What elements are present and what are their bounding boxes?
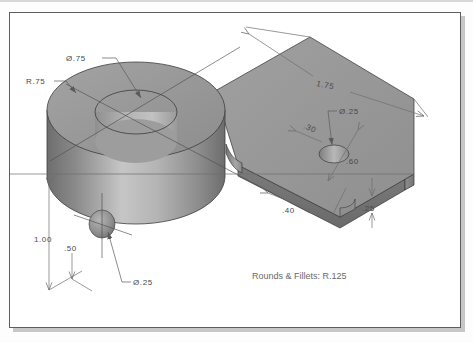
dimension-side-hole-height: .50 xyxy=(64,244,92,291)
dimension-side-hole-height-ext xyxy=(72,279,92,291)
dimension-side-hole-dia-label: Ø.25 xyxy=(133,278,153,287)
arm-hole-top xyxy=(319,145,349,163)
technical-drawing-canvas: Ø.75 R.75 1.75 Ø.25 xyxy=(10,13,460,327)
top-crop-rule xyxy=(0,0,473,2)
dimension-arm-length-ext-end xyxy=(414,99,428,117)
dimension-arm-hole-dist-label: .40 xyxy=(282,206,295,215)
dimension-arm-thickness-label: .25 xyxy=(362,204,375,213)
dimension-side-hole-dia: Ø.25 xyxy=(108,232,153,287)
dimension-arm-length-ext-start xyxy=(246,27,310,37)
drawing-viewer: Ø.75 R.75 1.75 Ø.25 xyxy=(0,0,473,343)
bore-bottom-edge xyxy=(95,119,177,163)
dimension-overall-height-ext-bot xyxy=(49,271,82,290)
dimension-side-hole-dia-leader xyxy=(108,232,131,282)
drawing-page: Ø.75 R.75 1.75 Ø.25 xyxy=(9,12,461,328)
dimension-arm-width-label: .60 xyxy=(346,157,359,166)
dimension-bore-dia-label: Ø.75 xyxy=(66,54,86,63)
dimension-arm-hole-dia-label: Ø.25 xyxy=(339,107,359,116)
dimension-side-hole-height-label: .50 xyxy=(64,244,77,253)
dimension-boss-radius-label: R.75 xyxy=(26,77,45,86)
dimension-overall-height-label: 1.00 xyxy=(34,235,52,244)
rounds-and-fillets-note: Rounds & Fillets: R.125 xyxy=(252,271,347,281)
